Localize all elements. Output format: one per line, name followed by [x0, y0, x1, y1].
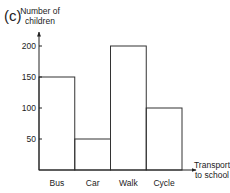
x-tick-label-car: Car	[86, 178, 100, 188]
y-tick-label: 100	[22, 103, 36, 113]
bars-group	[39, 46, 182, 170]
bar-bus	[39, 77, 75, 170]
y-axis-label-line2: children	[25, 16, 55, 26]
bar-car	[75, 139, 111, 170]
bar-cycle	[146, 108, 182, 170]
bar-walk	[111, 46, 147, 170]
x-axis-label-line2: to school	[195, 170, 229, 180]
panel-label: (c)	[4, 7, 22, 24]
y-tick-label: 50	[27, 134, 37, 144]
y-tick-label: 150	[22, 72, 36, 82]
bar-chart: (c) Number of children 50100150200 BusCa…	[0, 0, 230, 193]
x-tick-labels-group: BusCarWalkCycle	[50, 178, 175, 188]
x-tick-label-cycle: Cycle	[153, 178, 175, 188]
x-tick-label-walk: Walk	[119, 178, 138, 188]
y-tick-label: 200	[22, 41, 36, 51]
x-axis-label-line1: Transport	[194, 160, 230, 170]
y-axis-label-line1: Number of	[20, 6, 60, 16]
x-tick-label-bus: Bus	[50, 178, 65, 188]
